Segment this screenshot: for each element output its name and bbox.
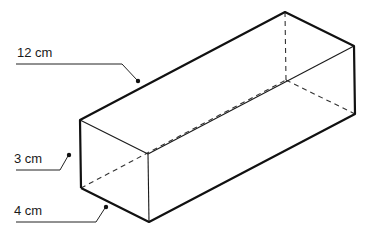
dot-width — [104, 205, 108, 209]
length-label: 12 cm — [17, 46, 52, 59]
hidden-edge-long — [81, 80, 286, 188]
inner-edges — [80, 46, 354, 222]
hidden-edge-short — [286, 80, 355, 114]
height-label: 3 cm — [14, 152, 42, 165]
width-label: 4 cm — [14, 204, 42, 217]
top-front-long-edge — [148, 46, 354, 154]
hidden-edge-vertical — [285, 12, 286, 80]
dot-length — [136, 79, 140, 83]
front-top-edge — [80, 120, 148, 154]
leader-length — [16, 64, 137, 80]
hidden-edges — [81, 12, 355, 188]
front-vertical-edge — [148, 154, 149, 222]
leader-lines — [16, 64, 137, 222]
dot-height — [67, 153, 71, 157]
prism-diagram — [0, 0, 370, 235]
